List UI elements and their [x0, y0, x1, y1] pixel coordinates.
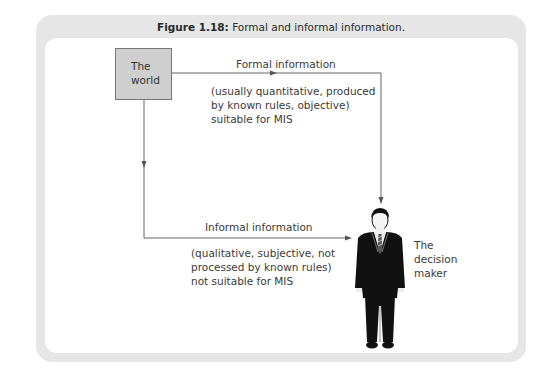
arrow-right-icon [345, 236, 352, 241]
formal-info-desc: (usually quantitative, produced by known… [211, 84, 375, 126]
node-label-line: world [131, 73, 171, 87]
node-label-line: The [414, 238, 457, 252]
desc-line: suitable for MIS [211, 112, 375, 126]
desc-line: not suitable for MIS [191, 274, 335, 288]
businessman-icon [352, 206, 408, 351]
desc-line: by known rules, objective) [211, 98, 375, 112]
desc-line: processed by known rules) [191, 260, 335, 274]
informal-info-label: Informal information [205, 220, 313, 234]
arrow-right-icon [270, 71, 277, 76]
desc-line: (qualitative, subjective, not [191, 246, 335, 260]
informal-info-desc: (qualitative, subjective, not processed … [191, 246, 335, 288]
arrow-down-icon [142, 161, 147, 168]
decision-maker-label: The decision maker [414, 238, 457, 280]
formal-info-label: Formal information [236, 57, 336, 71]
desc-line: (usually quantitative, produced [211, 84, 375, 98]
node-label-line: decision [414, 252, 457, 266]
node-label-line: The [131, 59, 171, 73]
the-world-node: The world [115, 48, 172, 100]
arrow-down-icon [379, 197, 384, 204]
node-label-line: maker [414, 266, 457, 280]
